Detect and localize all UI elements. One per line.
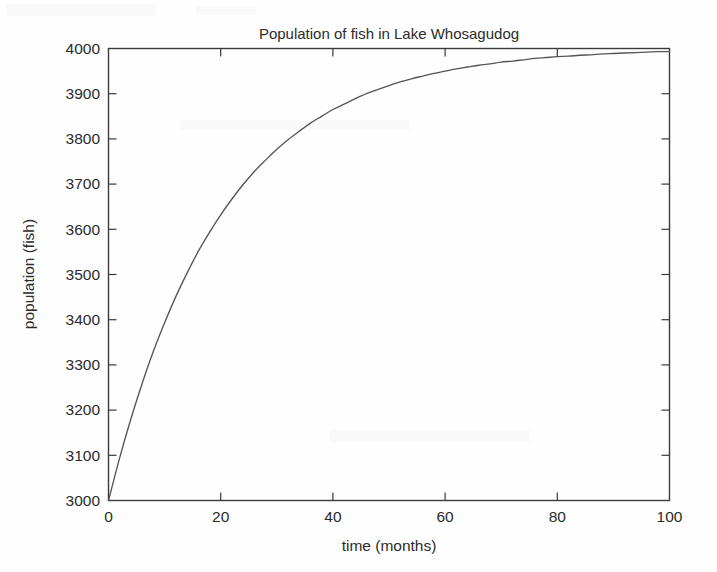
y-tick-label: 3400: [66, 311, 101, 328]
x-tick-marks-bottom: [221, 493, 558, 501]
x-tick-label: 0: [104, 508, 113, 525]
y-tick-label: 3700: [66, 175, 101, 192]
y-tick-marks-right: [662, 94, 670, 456]
population-curve: [109, 52, 670, 501]
y-tick-label: 3500: [66, 266, 101, 283]
chart-page: Population of fish in Lake Whosagudog: [0, 0, 717, 572]
x-tick-label: 20: [212, 508, 230, 525]
y-tick-label: 4000: [66, 40, 101, 57]
x-axis-title: time (months): [342, 537, 437, 554]
axes-frame: [109, 49, 670, 501]
y-tick-label: 3600: [66, 221, 101, 238]
x-tick-label: 80: [549, 508, 567, 525]
x-tick-label: 60: [436, 508, 454, 525]
y-tick-label: 3100: [66, 447, 101, 464]
y-tick-label: 3000: [66, 492, 101, 509]
chart-title: Population of fish in Lake Whosagudog: [259, 25, 519, 42]
x-tick-marks-top: [221, 49, 558, 57]
x-tick-label: 40: [324, 508, 342, 525]
y-tick-marks-left: [109, 94, 117, 456]
x-tick-label: 100: [657, 508, 683, 525]
population-line-chart: Population of fish in Lake Whosagudog: [0, 0, 717, 572]
x-tick-labels: 0 20 40 60 80 100: [104, 508, 683, 525]
y-tick-label: 3900: [66, 85, 101, 102]
y-tick-label: 3800: [66, 130, 101, 147]
y-tick-label: 3300: [66, 356, 101, 373]
y-axis-title: population (fish): [20, 219, 37, 329]
y-tick-labels: 4000 3900 3800 3700 3600 3500 3400 3300 …: [66, 40, 101, 509]
y-tick-label: 3200: [66, 401, 101, 418]
